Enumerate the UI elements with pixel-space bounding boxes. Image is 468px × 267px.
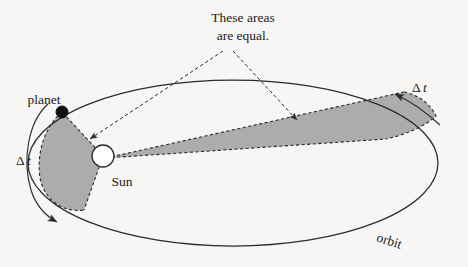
planet-label: planet (28, 92, 61, 107)
equal-areas-note-line2: are equal. (217, 28, 269, 43)
leader-to-perihelion-area (90, 51, 223, 139)
delta-t-left-symbol: Δ (16, 153, 25, 168)
swept-area-aphelion-fill (106, 92, 436, 158)
diagram-canvas: These areas are equal. planet Sun orbit … (0, 0, 468, 267)
orbit-label: orbit (375, 230, 404, 252)
delta-t-right-variable: t (423, 80, 428, 95)
equal-areas-note-line1: These areas (211, 10, 274, 25)
leader-to-aphelion-area (233, 51, 297, 120)
swept-area-aphelion (106, 92, 436, 158)
keplers-second-law-diagram: These areas are equal. planet Sun orbit … (0, 0, 468, 267)
sun-body (92, 145, 114, 167)
delta-t-right: Δ t (412, 80, 428, 95)
delta-t-left: Δ t (16, 153, 32, 168)
planet-body (56, 106, 68, 118)
sun-label: Sun (111, 174, 132, 189)
delta-t-left-variable: t (27, 153, 32, 168)
delta-t-right-symbol: Δ (412, 80, 421, 95)
